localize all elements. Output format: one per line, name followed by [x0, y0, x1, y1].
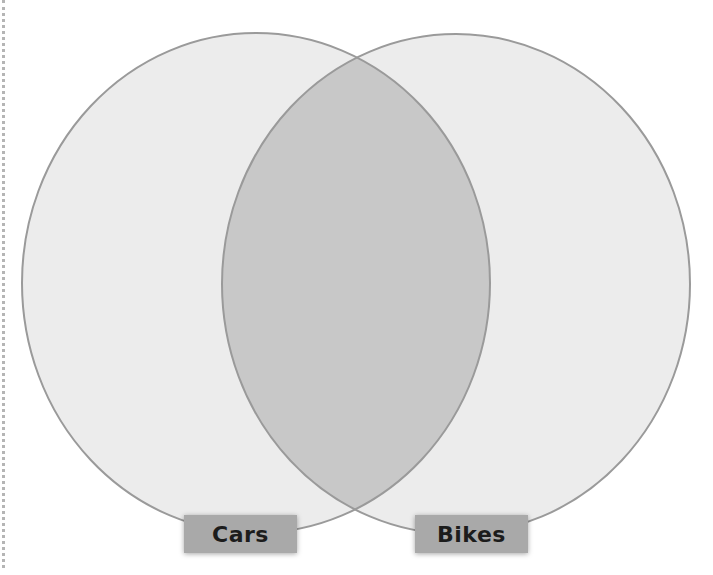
set-label-cars-text: Cars — [212, 522, 269, 547]
set-label-cars: Cars — [184, 515, 297, 553]
set-label-bikes: Bikes — [415, 515, 528, 553]
set-label-bikes-text: Bikes — [437, 522, 506, 547]
venn-diagram — [0, 0, 713, 575]
